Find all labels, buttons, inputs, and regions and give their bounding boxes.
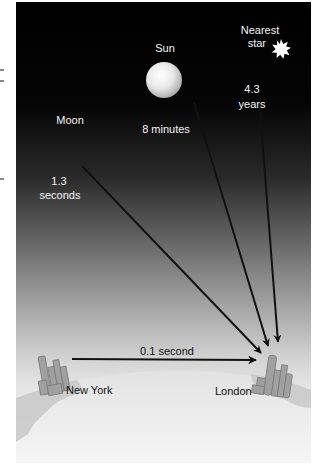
transit-time-label: 0.1 second <box>132 345 202 358</box>
light-travel-diagram: Sun Nearest star 4.3 years 8 minutes Moo… <box>16 2 311 463</box>
ny-london-arrow <box>72 359 256 360</box>
london-label: London <box>215 385 265 398</box>
starburst-icon <box>272 39 291 59</box>
moon-light-arrow <box>82 166 261 353</box>
crescent-moon-icon <box>54 134 77 161</box>
star-time-unit: years <box>232 98 272 111</box>
moon-time-value: 1.3 <box>44 175 74 188</box>
sun-sphere-icon <box>146 62 182 98</box>
star-label-line1: Nearest <box>238 24 282 37</box>
sun-light-arrow <box>194 102 268 346</box>
edge-mark <box>0 80 4 82</box>
sun-time: 8 minutes <box>136 123 196 136</box>
moon-time-unit: seconds <box>36 189 84 202</box>
star-label-line2: star <box>238 37 266 50</box>
sun-label: Sun <box>150 42 180 55</box>
edge-mark <box>0 69 4 71</box>
star-light-arrow <box>259 97 278 342</box>
new-york-label: New York <box>66 384 126 397</box>
edge-mark <box>0 178 4 180</box>
moon-label: Moon <box>50 114 90 127</box>
star-time-value: 4.3 <box>237 83 267 96</box>
